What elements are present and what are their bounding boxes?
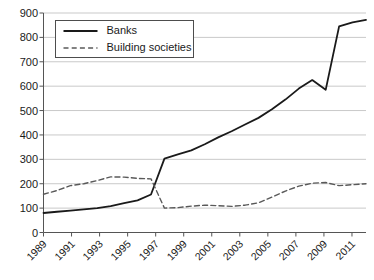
y-tick-label: 300: [20, 153, 38, 165]
line-chart: 0100200300400500600700800900 19891991199…: [0, 0, 374, 280]
legend-label-building-societies: Building societies: [107, 41, 192, 53]
y-tick-label: 0: [32, 227, 38, 239]
y-tick-label: 800: [20, 31, 38, 43]
y-tick-label: 400: [20, 129, 38, 141]
y-tick-label: 500: [20, 105, 38, 117]
chart-canvas: 0100200300400500600700800900 19891991199…: [0, 0, 374, 280]
y-tick-label: 900: [20, 7, 38, 19]
legend-label-banks: Banks: [107, 24, 138, 36]
y-tick-label: 200: [20, 178, 38, 190]
chart-legend: BanksBuilding societies: [56, 21, 194, 58]
y-tick-label: 100: [20, 202, 38, 214]
y-tick-label: 600: [20, 80, 38, 92]
y-tick-label: 700: [20, 56, 38, 68]
